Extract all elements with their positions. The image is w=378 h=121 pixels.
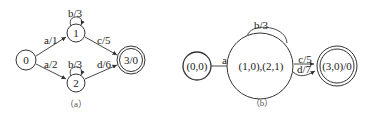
label-loop: b/3: [254, 19, 269, 31]
panel-b: a/1 b/3 c/5 d/7 (0,0) (1,0),(2,1) (3,0)/…: [183, 19, 357, 108]
label-e22: b/3: [68, 58, 83, 70]
node-00-label: (0,0): [186, 60, 207, 73]
node-2-label: 2: [73, 77, 79, 89]
node-1-label: 1: [73, 27, 79, 39]
panel-a: a/1 a/2 b/3 b/3 c/5 d/6 0 1 2 3/0 （a）: [16, 7, 145, 109]
label-d: d/7: [297, 63, 312, 75]
label-e23: d/6: [97, 58, 112, 70]
diagram-canvas: a/1 a/2 b/3 b/3 c/5 d/6 0 1 2 3/0 （a） a/…: [0, 0, 378, 121]
caption-b: （b）: [251, 98, 274, 108]
node-1021-label: (1,0),(2,1): [239, 60, 284, 73]
node-3-label: 3/0: [124, 54, 139, 66]
label-e01: a/1: [44, 34, 57, 46]
node-30-label: (3,0)/0: [322, 60, 352, 73]
label-e13: c/5: [97, 34, 111, 46]
label-e02: a/2: [44, 58, 57, 70]
node-0-label: 0: [23, 54, 29, 66]
label-e11: b/3: [68, 7, 83, 19]
caption-a: （a）: [65, 99, 87, 109]
